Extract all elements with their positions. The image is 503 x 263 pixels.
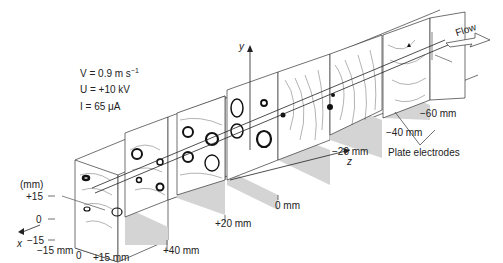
y-axis-label: y — [238, 41, 245, 52]
slice-minus20 — [278, 54, 330, 185]
current-param: I = 65 μA — [80, 101, 121, 112]
x-tick-minus15: −15 mm — [37, 245, 73, 256]
velocity-param: V = 0.9 m s−1 — [80, 67, 139, 79]
z-label-minus60: −60 mm — [420, 108, 456, 119]
vortex-flow-diagram: y z x (mm) +15 0 −15 −15 mm 0 +15 mm +40… — [0, 0, 503, 263]
y-axis-ticks: (mm) +15 0 −15 — [20, 179, 55, 246]
z-axis-label: z — [346, 156, 352, 167]
x-tick-plus15: +15 mm — [93, 252, 129, 263]
y-tick-zero: 0 — [36, 214, 42, 225]
y-tick-plus15: +15 — [26, 191, 43, 202]
x-tick-zero: 0 — [76, 250, 82, 261]
central-axis-line-2 — [95, 45, 448, 193]
z-label-plus20: +20 mm — [215, 218, 251, 229]
z-label-minus20: −20 mm — [332, 146, 368, 157]
y-unit-label: (mm) — [20, 179, 43, 190]
slice-minus40 — [327, 35, 382, 158]
z-label-plus40: +40 mm — [163, 245, 199, 256]
voltage-param: U = +10 kV — [80, 84, 130, 95]
plate-electrodes-label: Plate electrodes — [388, 147, 460, 158]
z-label-zero: 0 mm — [275, 200, 300, 211]
slice-zero — [227, 72, 278, 210]
z-label-minus40: −40 mm — [386, 127, 422, 138]
x-axis-label: x — [16, 238, 23, 249]
parameters-block: V = 0.9 m s−1 U = +10 kV I = 65 μA — [80, 67, 139, 112]
